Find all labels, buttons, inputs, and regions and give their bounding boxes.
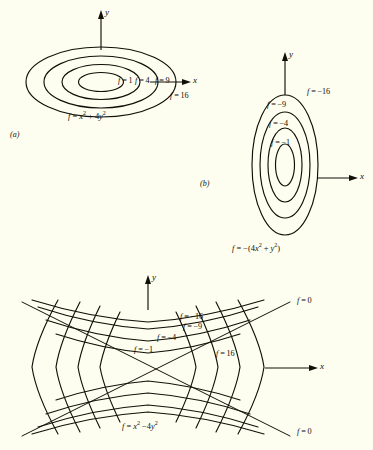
panel-b-x-axis-label: x xyxy=(360,172,364,181)
panel-a-caption: (a) xyxy=(10,131,19,139)
panel-a-label-f1: f = f = 11 xyxy=(118,77,133,85)
panel-c-x-axis-label: x xyxy=(320,362,324,371)
panel-c-label-f0-top: f = 0 xyxy=(297,297,312,305)
panel-b-caption: (b) xyxy=(200,180,209,188)
panel-c-label-fminus9: f = −9 xyxy=(183,323,202,331)
panel-a-x-axis-label: x xyxy=(193,76,197,85)
panel-c-label-fminus16: f = −16 xyxy=(180,313,203,321)
panel-c-level-curve-4-left xyxy=(78,306,100,428)
panel-c-level-curve-16-right xyxy=(238,300,264,434)
panel-c-level-curve-9-right xyxy=(216,302,240,432)
panel-b-level-curve-minus1 xyxy=(276,144,295,186)
panel-a-level-curve-1 xyxy=(79,73,124,92)
panel-a-y-axis-label: y xyxy=(105,8,109,17)
panel-b-label-fminus16: f = −16 xyxy=(307,88,330,96)
panel-b-label-fminus1: f = −1 xyxy=(271,139,290,147)
panel-c-graphics xyxy=(22,275,318,436)
panel-c-formula: f = x2 −4y2 xyxy=(122,423,158,431)
panel-c-label-f0-bottom: f = 0 xyxy=(297,428,312,436)
panel-c-level-curve-16-left xyxy=(32,300,58,434)
panel-c-label-f16: f = 16 xyxy=(216,350,235,358)
panel-a-graphics xyxy=(26,10,191,117)
panel-c-x-axis-arrowhead xyxy=(309,365,318,371)
panel-c-label-fminus4: f = −4 xyxy=(157,334,176,342)
panel-a-y-axis-arrowhead xyxy=(98,10,104,19)
panel-c-y-axis-label: y xyxy=(152,273,156,282)
panel-b-y-axis-arrowhead xyxy=(282,52,288,61)
panel-a-label-f16: f = 16 xyxy=(170,92,189,100)
figure-container: y x f = f = 11 f = 4 f = 9 f = 16 f = x2… xyxy=(0,0,373,450)
panel-b-formula: f = −(4x2 + y2) xyxy=(232,245,280,253)
panel-b-x-axis-arrowhead xyxy=(349,175,358,181)
figure-canvas xyxy=(0,0,373,450)
panel-c-y-axis-arrowhead xyxy=(145,275,151,284)
panel-a-label-f4: f = 4 xyxy=(135,77,150,85)
panel-a-x-axis-arrowhead xyxy=(182,79,191,85)
panel-c-label-fminus1: f = −1 xyxy=(134,346,153,354)
panel-b-level-curve-minus16 xyxy=(252,95,318,235)
panel-c-level-curve-1-left xyxy=(100,312,120,422)
panel-c-level-curve-minus4-lower xyxy=(46,393,250,414)
panel-b-y-axis-label: y xyxy=(289,50,293,59)
panel-b-label-fminus4: f = −4 xyxy=(269,120,288,128)
panel-a-formula: f = x2 + 4y2 xyxy=(68,113,106,121)
panel-b-graphics xyxy=(252,52,358,235)
panel-a-label-f9: f = 9 xyxy=(155,77,170,85)
panel-b-label-fminus9: f = −9 xyxy=(267,101,286,109)
